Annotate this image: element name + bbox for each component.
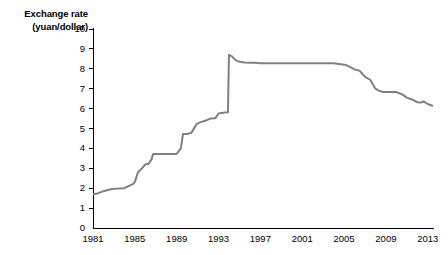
x-tick-label: 2001 <box>292 233 313 244</box>
y-tick-label: 1 <box>80 202 85 213</box>
y-tick-label: 0 <box>80 222 85 233</box>
x-tick-label: 2009 <box>375 233 396 244</box>
x-tick-label: 1981 <box>82 233 103 244</box>
x-tick-label: 1993 <box>208 233 229 244</box>
y-tick-label: 4 <box>80 142 85 153</box>
x-tick-label: 1989 <box>166 233 187 244</box>
x-tick-label: 2005 <box>333 233 354 244</box>
x-tick-label: 1985 <box>124 233 145 244</box>
y-tick-label: 5 <box>80 123 85 134</box>
x-tick-label: 1997 <box>250 233 271 244</box>
y-tick-label: 2 <box>80 182 85 193</box>
y-tick-label: 6 <box>80 103 85 114</box>
y-tick-label: 7 <box>80 83 85 94</box>
chart-figure: Exchange rate (yuan/dollar) 012345678910… <box>0 0 448 255</box>
y-tick-label: 3 <box>80 162 85 173</box>
y-tick-label: 10 <box>74 23 85 34</box>
y-tick-label: 8 <box>80 63 85 74</box>
y-tick-label: 9 <box>80 43 85 54</box>
line-chart-plot: 0123456789101981198519891993199720012005… <box>0 0 448 255</box>
data-series-line <box>93 55 433 194</box>
x-tick-label: 2013 <box>417 233 438 244</box>
